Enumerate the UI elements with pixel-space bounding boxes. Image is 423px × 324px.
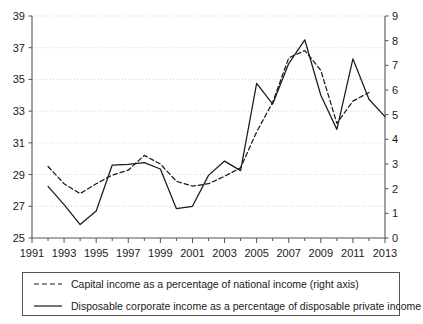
- legend-item-capital-income: Capital income as a percentage of nation…: [23, 273, 399, 295]
- svg-text:2005: 2005: [244, 247, 268, 259]
- svg-text:39: 39: [13, 10, 25, 22]
- svg-text:2013: 2013: [373, 247, 397, 259]
- data-series: [48, 40, 385, 225]
- svg-text:1997: 1997: [116, 247, 140, 259]
- svg-text:29: 29: [13, 169, 25, 181]
- svg-text:2009: 2009: [309, 247, 333, 259]
- svg-text:4: 4: [392, 133, 398, 145]
- svg-text:6: 6: [392, 84, 398, 96]
- svg-text:7: 7: [392, 59, 398, 71]
- svg-text:31: 31: [13, 137, 25, 149]
- svg-text:37: 37: [13, 42, 25, 54]
- svg-text:2011: 2011: [341, 247, 365, 259]
- svg-text:3: 3: [392, 158, 398, 170]
- svg-text:1995: 1995: [84, 247, 108, 259]
- chart-container: 2527293133353739012345678919911993199519…: [0, 0, 423, 324]
- svg-text:27: 27: [13, 200, 25, 212]
- svg-text:33: 33: [13, 105, 25, 117]
- svg-text:1: 1: [392, 207, 398, 219]
- chart-legend: Capital income as a percentage of nation…: [22, 272, 400, 316]
- legend-label-disposable-corporate-income: Disposable corporate income as a percent…: [71, 300, 421, 312]
- svg-text:1993: 1993: [52, 247, 76, 259]
- legend-label-capital-income: Capital income as a percentage of nation…: [71, 278, 359, 290]
- svg-text:35: 35: [13, 73, 25, 85]
- svg-text:2001: 2001: [180, 247, 204, 259]
- svg-text:9: 9: [392, 10, 398, 22]
- dashed-line-icon: [33, 278, 63, 290]
- line-chart-plot: 2527293133353739012345678919911993199519…: [0, 0, 423, 268]
- legend-item-disposable-corporate-income: Disposable corporate income as a percent…: [23, 295, 399, 317]
- svg-text:1991: 1991: [20, 247, 44, 259]
- svg-text:0: 0: [392, 232, 398, 244]
- svg-text:25: 25: [13, 232, 25, 244]
- svg-text:2007: 2007: [276, 247, 300, 259]
- svg-text:8: 8: [392, 35, 398, 47]
- svg-text:2: 2: [392, 183, 398, 195]
- axis-tick-labels: 2527293133353739012345678919911993199519…: [13, 10, 398, 259]
- svg-text:5: 5: [392, 109, 398, 121]
- solid-line-icon: [33, 300, 63, 312]
- axis-ticks: [29, 16, 389, 243]
- gridlines: [32, 16, 385, 206]
- svg-text:1999: 1999: [148, 247, 172, 259]
- axis-lines: [32, 16, 385, 238]
- svg-text:2003: 2003: [212, 247, 236, 259]
